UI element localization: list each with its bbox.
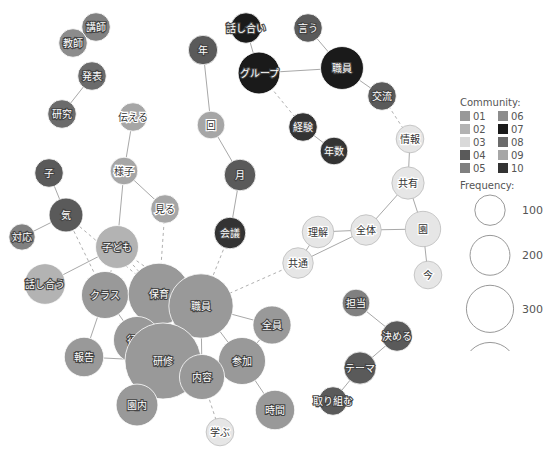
node[interactable]: 話し合う bbox=[25, 264, 66, 305]
community-label: 09 bbox=[511, 150, 524, 161]
node-label: 言う bbox=[298, 22, 318, 34]
node[interactable]: 理解 bbox=[302, 216, 334, 248]
node-label: 対応 bbox=[12, 231, 32, 243]
node[interactable]: 月 bbox=[224, 159, 256, 191]
node[interactable]: 対応 bbox=[9, 224, 35, 250]
node[interactable]: 取り組む bbox=[313, 387, 353, 416]
node[interactable]: 発表 bbox=[78, 62, 107, 91]
community-label: 08 bbox=[511, 137, 524, 148]
community-swatch bbox=[460, 124, 470, 134]
node-label: 報告 bbox=[74, 351, 94, 363]
node[interactable]: 年 bbox=[188, 35, 217, 64]
node[interactable]: 全体 bbox=[351, 215, 382, 246]
node[interactable]: 経験 bbox=[289, 113, 318, 142]
node[interactable]: 職員 bbox=[321, 47, 364, 90]
node[interactable]: 様子 bbox=[110, 157, 138, 185]
node[interactable]: 内容 bbox=[179, 354, 224, 399]
node[interactable]: テーマ bbox=[344, 352, 376, 384]
community-legend-item: 09 bbox=[498, 149, 536, 161]
node[interactable]: 研究 bbox=[48, 100, 77, 129]
community-swatch bbox=[460, 163, 470, 173]
frequency-legend-circle bbox=[466, 285, 513, 332]
node-label: 全体 bbox=[356, 224, 376, 236]
node-label: 子ども bbox=[102, 242, 132, 253]
node[interactable]: 会議 bbox=[214, 217, 246, 249]
node[interactable]: クラス bbox=[81, 271, 128, 318]
node-label: 年 bbox=[198, 44, 208, 56]
node-label: 研修 bbox=[153, 355, 173, 367]
node-label: テーマ bbox=[345, 363, 375, 374]
node-label: 伝える bbox=[118, 112, 148, 123]
community-legend-item: 03 bbox=[460, 136, 498, 148]
node[interactable]: 担当 bbox=[342, 289, 370, 317]
node[interactable]: 時間 bbox=[255, 390, 294, 429]
node[interactable]: 共有 bbox=[392, 167, 424, 199]
community-label: 05 bbox=[473, 163, 486, 174]
frequency-legend-label: 200 bbox=[522, 249, 543, 262]
node-label: 園 bbox=[418, 224, 428, 235]
node-label: クラス bbox=[90, 290, 120, 301]
node[interactable]: 決める bbox=[382, 321, 413, 352]
community-label: 01 bbox=[473, 111, 486, 122]
node-label: 内容 bbox=[192, 371, 212, 383]
frequency-legend-title: Frequency: bbox=[460, 180, 543, 191]
node[interactable]: 話し合い bbox=[226, 13, 266, 44]
node-label: 見る bbox=[155, 204, 175, 215]
community-label: 07 bbox=[511, 124, 524, 135]
community-legend-item: 01 bbox=[460, 110, 498, 122]
node-label: 研究 bbox=[52, 108, 72, 120]
node[interactable]: 交流 bbox=[368, 82, 397, 111]
nodes-layer: 講師教師発表研究話し合い言うグループ職員交流経験年数伝える年回月情報様子見る子気… bbox=[9, 13, 442, 446]
node[interactable]: グループ bbox=[238, 52, 280, 94]
node-label: 子 bbox=[44, 168, 54, 179]
node-label: 全員 bbox=[262, 319, 282, 331]
community-swatch bbox=[498, 150, 508, 160]
node-label: 決める bbox=[382, 331, 412, 342]
community-legend-item: 04 bbox=[460, 149, 498, 161]
node-label: 参加 bbox=[232, 355, 252, 367]
node[interactable]: 教師 bbox=[59, 29, 88, 58]
community-legend-item: 08 bbox=[498, 136, 536, 148]
node-label: 会議 bbox=[220, 227, 240, 239]
node[interactable]: 年数 bbox=[320, 137, 348, 165]
community-legend-title: Community: bbox=[460, 97, 543, 108]
community-legend-item: 02 bbox=[460, 123, 498, 135]
community-legend-item: 06 bbox=[498, 110, 536, 122]
node-label: 学ぶ bbox=[210, 426, 230, 438]
node[interactable]: 共通 bbox=[283, 248, 314, 279]
node-label: 月 bbox=[235, 170, 245, 181]
node-label: 経験 bbox=[293, 121, 313, 133]
node-label: 園内 bbox=[127, 399, 147, 411]
node[interactable]: 子ども bbox=[96, 226, 139, 269]
node[interactable]: 報告 bbox=[64, 337, 103, 376]
frequency-legend-label: 300 bbox=[522, 303, 543, 316]
frequency-legend-circle bbox=[463, 342, 516, 351]
node[interactable]: 今 bbox=[414, 261, 442, 289]
node[interactable]: 伝える bbox=[118, 103, 148, 132]
node-label: 教師 bbox=[63, 37, 83, 49]
community-legend-item: 05 bbox=[460, 162, 498, 174]
node[interactable]: 学ぶ bbox=[206, 418, 234, 446]
node[interactable]: 言う bbox=[294, 14, 323, 43]
node[interactable]: 園 bbox=[405, 211, 440, 246]
node-label: 話し合い bbox=[226, 22, 266, 34]
node-label: 理解 bbox=[308, 226, 328, 238]
node[interactable]: 子 bbox=[35, 159, 64, 188]
community-swatch bbox=[460, 111, 470, 121]
node-label: グループ bbox=[240, 67, 279, 79]
node[interactable]: 気 bbox=[49, 198, 83, 232]
node-label: 職員 bbox=[191, 301, 211, 312]
node[interactable]: 全員 bbox=[253, 306, 291, 344]
frequency-legend: 100200300400 bbox=[458, 191, 543, 351]
node-label: 今 bbox=[423, 269, 433, 281]
node[interactable]: 回 bbox=[197, 111, 225, 139]
frequency-legend-label: 100 bbox=[522, 204, 543, 217]
community-label: 02 bbox=[473, 124, 486, 135]
node-label: 共通 bbox=[288, 258, 308, 269]
node[interactable]: 参加 bbox=[218, 337, 265, 384]
node[interactable]: 見る bbox=[151, 195, 180, 224]
node[interactable]: 情報 bbox=[396, 125, 424, 153]
community-label: 03 bbox=[473, 137, 486, 148]
node[interactable]: 園内 bbox=[116, 384, 158, 426]
community-swatch bbox=[498, 124, 508, 134]
